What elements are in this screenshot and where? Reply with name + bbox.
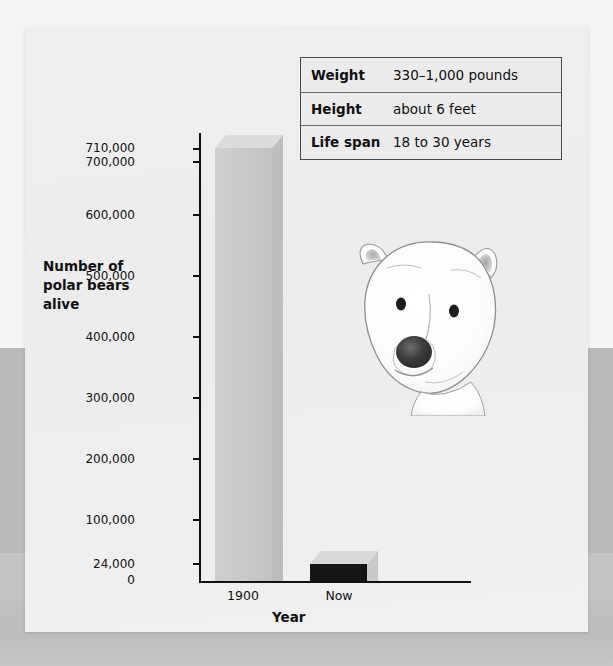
y-tick-label-700000: 700,000 (53, 155, 135, 169)
y-tick-label-100000: 100,000 (53, 513, 135, 527)
y-tick-label-0: 0 (53, 573, 135, 587)
y-tick-label-200000: 200,000 (53, 452, 135, 466)
bar-1900-side-face (272, 135, 283, 581)
bear-right-eye (449, 305, 459, 318)
polar-bear-head-illustration (325, 216, 525, 416)
y-axis-title-line-3: alive (43, 295, 163, 314)
bar-1900 (215, 148, 272, 581)
bar-chart: Number of polar bears alive 710,000 700,… (25, 28, 588, 632)
screenshot-root: Weight 330–1,000 pounds Height about 6 f… (0, 0, 613, 666)
y-tick-label-600000: 600,000 (53, 208, 135, 222)
y-tick-label-24000: 24,000 (53, 557, 135, 571)
page-sheet: Weight 330–1,000 pounds Height about 6 f… (25, 28, 588, 632)
bar-now (310, 564, 367, 581)
y-tick-label-710000: 710,000 (53, 141, 135, 155)
bear-left-eye (396, 298, 406, 311)
x-tick-label-now: Now (309, 588, 369, 603)
x-axis-line (199, 581, 471, 583)
bar-1900-top-face (215, 135, 283, 148)
y-tick-label-400000: 400,000 (53, 330, 135, 344)
y-axis-line (199, 133, 201, 582)
y-tick-label-500000: 500,000 (53, 269, 135, 283)
x-axis-title: Year (272, 609, 305, 625)
x-tick-label-1900: 1900 (213, 588, 273, 603)
bar-now-top-face (310, 551, 378, 564)
y-axis-title: Number of polar bears alive (43, 257, 163, 314)
bear-nose (396, 336, 432, 368)
y-tick-label-300000: 300,000 (53, 391, 135, 405)
